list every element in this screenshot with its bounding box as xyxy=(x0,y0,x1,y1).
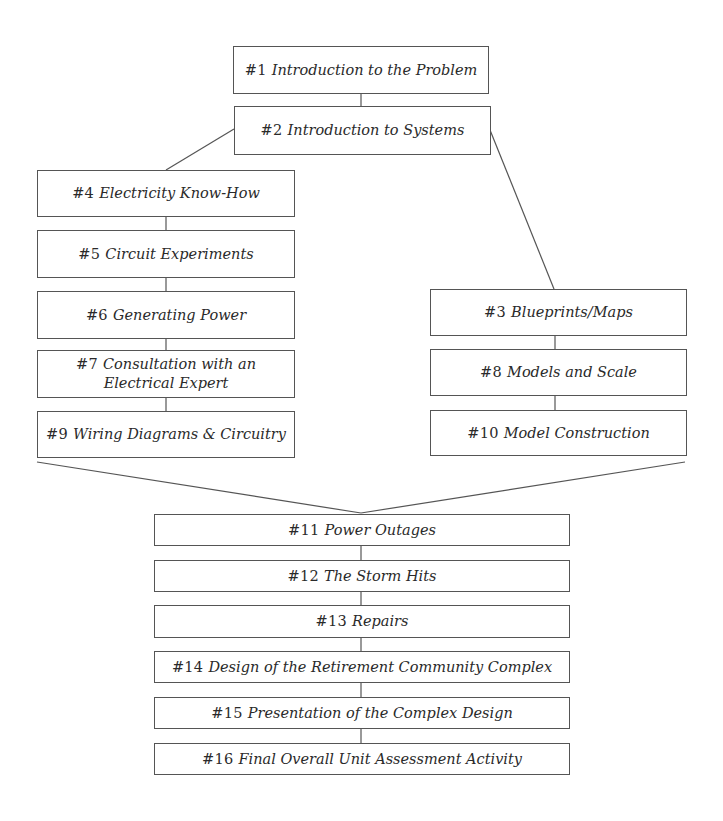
edge-2-4 xyxy=(166,129,234,170)
node-number: #4 xyxy=(72,184,94,203)
node-2-introduction-to-systems: #2Introduction to Systems xyxy=(234,106,491,155)
node-number: #5 xyxy=(78,245,100,264)
node-14-design-of-the-retirement-community-complex: #14Design of the Retirement Community Co… xyxy=(154,651,570,683)
node-number: #13 xyxy=(316,612,348,631)
node-number: #8 xyxy=(480,363,502,382)
node-title: Final Overall Unit Assessment Activity xyxy=(239,750,523,769)
node-number: #15 xyxy=(211,704,243,723)
node-title: Repairs xyxy=(352,612,408,631)
node-10-model-construction: #10Model Construction xyxy=(430,410,687,456)
node-title: Models and Scale xyxy=(507,363,637,382)
node-number: #6 xyxy=(86,306,108,325)
node-11-power-outages: #11Power Outages xyxy=(154,514,570,546)
edge-9-11 xyxy=(37,462,361,513)
node-number: #7 xyxy=(76,356,98,372)
node-title: Introduction to Systems xyxy=(288,121,465,140)
node-number: #12 xyxy=(287,567,319,586)
node-number: #11 xyxy=(288,521,320,540)
node-title: Generating Power xyxy=(113,306,246,325)
node-title: Wiring Diagrams & Circuitry xyxy=(73,425,286,444)
node-number: #1 xyxy=(245,61,267,80)
node-3-blueprints-maps: #3Blueprints/Maps xyxy=(430,289,687,336)
node-5-circuit-experiments: #5Circuit Experiments xyxy=(37,230,295,278)
edge-2-3 xyxy=(490,130,554,289)
edge-10-11 xyxy=(361,462,685,513)
node-12-the-storm-hits: #12The Storm Hits xyxy=(154,560,570,592)
node-1-introduction-to-the-problem: #1Introduction to the Problem xyxy=(233,46,489,94)
node-4-electricity-know-how: #4Electricity Know-How xyxy=(37,170,295,217)
node-title: The Storm Hits xyxy=(324,567,437,586)
node-15-presentation-of-the-complex-design: #15Presentation of the Complex Design xyxy=(154,697,570,729)
node-6-generating-power: #6Generating Power xyxy=(37,291,295,339)
node-title: Electricity Know-How xyxy=(99,184,260,203)
node-title: Circuit Experiments xyxy=(105,245,253,264)
node-number: #2 xyxy=(261,121,283,140)
node-number: #3 xyxy=(484,303,506,322)
node-title: Introduction to the Problem xyxy=(272,61,478,80)
node-title: Model Construction xyxy=(504,424,650,443)
node-number: #10 xyxy=(467,424,499,443)
node-label: #7Consultation with an Electrical Expert xyxy=(68,355,264,393)
node-9-wiring-diagrams-circuitry: #9Wiring Diagrams & Circuitry xyxy=(37,411,295,458)
node-8-models-and-scale: #8Models and Scale xyxy=(430,349,687,396)
node-number: #16 xyxy=(202,750,234,769)
node-13-repairs: #13Repairs xyxy=(154,605,570,638)
node-title: Power Outages xyxy=(325,521,436,540)
node-title: Consultation with an Electrical Expert xyxy=(103,356,256,391)
node-title: Presentation of the Complex Design xyxy=(248,704,513,723)
node-7-consultation-with-an-electrical-expert: #7Consultation with an Electrical Expert xyxy=(37,350,295,398)
node-title: Blueprints/Maps xyxy=(511,303,633,322)
node-number: #14 xyxy=(172,658,204,677)
node-16-final-overall-unit-assessment-activity: #16Final Overall Unit Assessment Activit… xyxy=(154,743,570,775)
node-title: Design of the Retirement Community Compl… xyxy=(208,658,552,677)
node-number: #9 xyxy=(46,425,68,444)
